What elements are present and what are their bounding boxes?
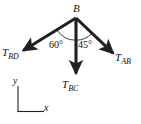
angle-label-60: 60° — [49, 40, 63, 50]
free-body-diagram-figure: B TBD TBC TAB 60° 45° y x — [0, 0, 141, 124]
force-label-tbc: TBC — [62, 79, 78, 90]
axis-label-y: y — [13, 76, 17, 86]
coordinate-axes — [18, 86, 45, 112]
force-label-tbc-sub: BC — [68, 84, 78, 93]
axis-label-x: x — [44, 103, 48, 113]
force-label-tab: TAB — [115, 52, 131, 63]
force-label-tab-sub: AB — [121, 57, 131, 66]
angle-label-45: 45° — [78, 40, 92, 50]
force-label-tbd: TBD — [2, 47, 19, 58]
force-label-tbd-sub: BD — [8, 52, 19, 61]
joint-label-b: B — [73, 3, 80, 14]
